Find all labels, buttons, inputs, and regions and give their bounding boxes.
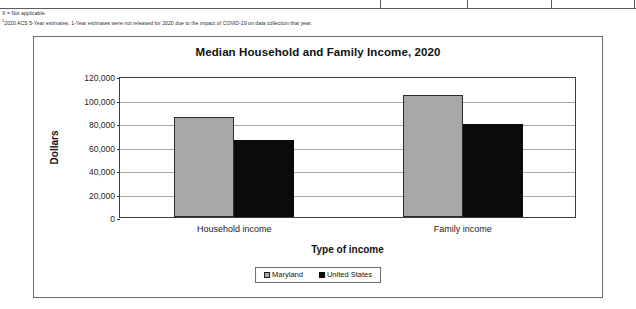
y-axis-tick-mark — [117, 196, 120, 197]
footnote-acs-text: 2020 ACS 5-Year estimates. 1-Year estima… — [4, 20, 312, 26]
footnote-not-applicable: X = Not applicable. — [2, 9, 422, 17]
legend-label-united-states: United States — [327, 270, 372, 279]
legend-label-maryland: Maryland — [272, 270, 303, 279]
chart-title: Median Household and Family Income, 2020 — [34, 46, 602, 58]
bar-maryland-family-income[interactable] — [403, 95, 463, 217]
y-axis-tick-mark — [117, 78, 120, 79]
y-axis-tick-mark — [117, 172, 120, 173]
y-axis-tick-mark — [117, 125, 120, 126]
bar-united-states-household-income[interactable] — [234, 140, 294, 217]
y-axis-tick-label: 60,000 — [89, 144, 115, 154]
y-axis-tick-label: 100,000 — [84, 97, 115, 107]
legend-item-maryland[interactable]: Maryland — [264, 270, 303, 279]
plot-area: 120,000100,00080,00060,00040,00020,0000H… — [119, 77, 576, 218]
footnote-acs-estimates: 12020 ACS 5-Year estimates. 1-Year estim… — [2, 17, 422, 27]
y-axis-tick-mark — [117, 149, 120, 150]
y-axis-tick-label: 80,000 — [89, 120, 115, 130]
y-axis-tick-mark — [117, 219, 120, 220]
table-column-divider — [467, 0, 468, 9]
y-axis-title: Dollars — [48, 77, 62, 218]
table-column-divider — [380, 0, 381, 9]
gridline — [120, 102, 575, 103]
y-axis-tick-label: 0 — [110, 214, 115, 224]
x-axis-category-label: Family income — [434, 224, 492, 234]
x-axis-category-label: Household income — [197, 224, 272, 234]
legend-swatch-maryland — [264, 272, 270, 278]
y-axis-tick-label: 20,000 — [89, 191, 115, 201]
footnotes: X = Not applicable. 12020 ACS 5-Year est… — [2, 9, 422, 27]
chart-container: Median Household and Family Income, 2020… — [33, 36, 603, 298]
legend-item-united-states[interactable]: United States — [319, 270, 372, 279]
table-column-divider — [634, 0, 635, 9]
x-axis-title: Type of income — [119, 244, 576, 255]
y-axis-tick-label: 120,000 — [84, 73, 115, 83]
chart-legend: Maryland United States — [255, 267, 381, 283]
legend-swatch-united-states — [319, 272, 325, 278]
bar-united-states-family-income[interactable] — [463, 124, 523, 217]
y-axis-tick-label: 40,000 — [89, 167, 115, 177]
table-column-divider — [551, 0, 552, 9]
y-axis-tick-mark — [117, 102, 120, 103]
table-bottom-border — [0, 0, 636, 9]
bar-maryland-household-income[interactable] — [174, 117, 234, 217]
y-axis-title-text: Dollars — [50, 131, 61, 165]
